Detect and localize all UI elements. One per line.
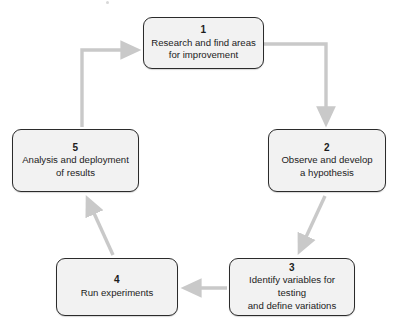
process-step-3[interactable]: 3 Identify variables for testing and def… [229,258,355,316]
connector-1-to-2 [264,44,326,122]
connector-2-to-3 [300,196,325,250]
process-step-4[interactable]: 4 Run experiments [56,258,178,316]
diagram-canvas: 1 Research and find areas for improvemen… [0,0,405,334]
connector-4-to-5 [88,200,113,255]
step-label: Observe and develop a hypothesis [276,154,377,179]
step-number: 2 [324,142,330,155]
step-number: 1 [201,24,207,37]
process-step-1[interactable]: 1 Research and find areas for improvemen… [143,17,264,69]
step-number: 3 [289,262,295,275]
step-number: 4 [114,274,120,287]
step-label: Analysis and deployment of results [17,154,134,179]
process-step-2[interactable]: 2 Observe and develop a hypothesis [268,129,386,192]
connector-5-to-1 [82,50,136,127]
step-label: Identify variables for testing and defin… [230,274,354,312]
process-step-5[interactable]: 5 Analysis and deployment of results [12,129,139,192]
top-edge-artifact [106,1,109,4]
step-label: Run experiments [76,287,159,300]
step-label: Research and find areas for improvement [146,37,261,62]
step-number: 5 [73,142,79,155]
